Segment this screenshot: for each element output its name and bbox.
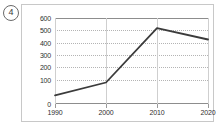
vgridline-2020	[208, 18, 209, 104]
clipped-footer-text: · · · · · ·	[122, 125, 214, 128]
y-axis-label-300: 300	[40, 51, 51, 58]
y-axis-label-200: 200	[40, 64, 51, 71]
xtick-2020	[208, 104, 209, 108]
question-number-badge: 4	[3, 5, 19, 21]
y-axis-label-0: 0	[47, 101, 51, 108]
y-axis-label-600: 600	[40, 15, 51, 22]
y-axis-label-100: 100	[40, 76, 51, 83]
figure-frame: 600 500 400 300 200 100 0 1990 2000 2010…	[21, 4, 214, 122]
x-axis-label-1990: 1990	[48, 109, 63, 116]
chart-screenshot: 4 600 500 400 300 200	[0, 0, 218, 128]
series-polyline	[55, 28, 208, 95]
line-series	[55, 18, 208, 104]
xtick-2000	[106, 104, 107, 108]
y-axis-label-400: 400	[40, 39, 51, 46]
plot-area: 600 500 400 300 200 100 0 1990 2000 2010…	[55, 18, 208, 104]
y-axis-label-500: 500	[40, 27, 51, 34]
x-axis-label-2010: 2010	[150, 109, 165, 116]
xtick-1990	[55, 104, 56, 108]
x-axis-label-2000: 2000	[99, 109, 114, 116]
x-axis-label-2020: 2020	[201, 109, 216, 116]
xtick-2010	[157, 104, 158, 108]
